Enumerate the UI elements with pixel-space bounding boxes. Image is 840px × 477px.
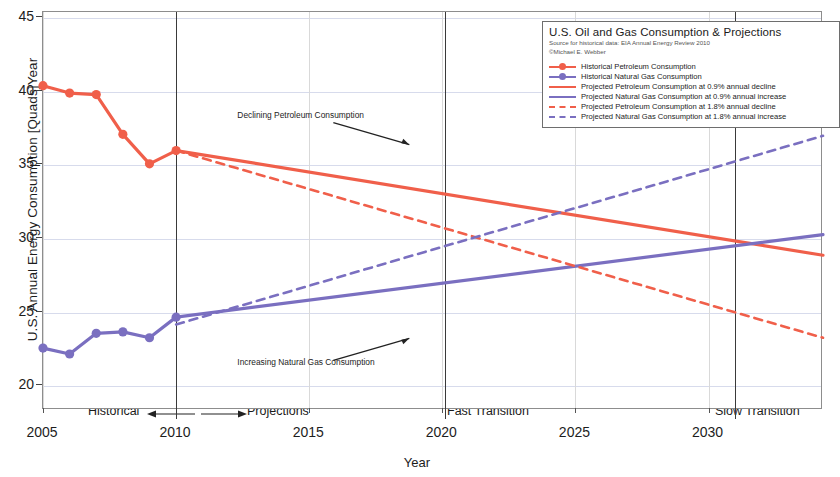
legend-title: U.S. Oil and Gas Consumption & Projectio… (549, 26, 833, 38)
legend-swatch (549, 72, 576, 82)
y-axis-title: U.S. Annual Energy Consumption [Quads]Ye… (25, 0, 40, 400)
x-tick-label: 2025 (544, 424, 604, 440)
legend-swatch (549, 92, 576, 102)
legend-source-line-2: ©Michael E. Webber (549, 48, 833, 57)
legend-label: Projected Natural Gas Consumption at 1.8… (581, 111, 786, 122)
legend-swatch (549, 82, 576, 92)
x-tick-label: 2020 (411, 424, 471, 440)
legend-swatch (549, 62, 576, 72)
x-tick-label: 2010 (145, 424, 205, 440)
y-tick-label: 25 (0, 303, 34, 319)
legend-item: Projected Natural Gas Consumption at 1.8… (549, 112, 833, 122)
y-tick-label: 45 (0, 8, 34, 24)
plot-area: Declining Petroleum ConsumptionIncreasin… (42, 11, 822, 409)
legend-marker-dot (559, 73, 566, 80)
x-tick-label: 2030 (678, 424, 738, 440)
legend-source-line-1: Source for historical data: EIA Annual E… (549, 39, 833, 48)
x-tick-label: 2005 (12, 424, 72, 440)
y-tick-label: 40 (0, 82, 34, 98)
legend-swatch (549, 112, 576, 122)
legend-marker-dot (559, 63, 566, 70)
y-tick-label: 30 (0, 229, 34, 245)
legend-swatch (549, 102, 576, 112)
x-axis-title: Year (0, 455, 834, 470)
x-tick-label: 2015 (278, 424, 338, 440)
chart-legend: U.S. Oil and Gas Consumption & Projectio… (542, 21, 840, 128)
legend-items: Historical Petroleum ConsumptionHistoric… (549, 62, 833, 122)
y-tick-label: 20 (0, 376, 34, 392)
y-tick-label: 35 (0, 155, 34, 171)
